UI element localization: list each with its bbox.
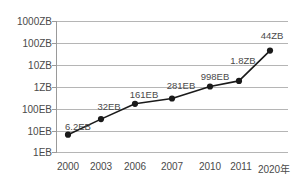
x-tick-label: 2020年 [258, 161, 290, 176]
data-point-label: 281EB [167, 80, 196, 91]
x-tick-label: 2000 [57, 161, 79, 172]
x-tick-label: 2007 [161, 161, 183, 172]
data-point-label: 44ZB [261, 30, 284, 41]
data-point-marker [132, 101, 138, 107]
data-point-marker [267, 48, 273, 54]
data-point-marker [207, 83, 213, 89]
x-tick-label: 2006 [124, 161, 146, 172]
data-point-label: 6.2EB [65, 121, 91, 132]
x-tick-label: 2010 [199, 161, 221, 172]
data-point-marker [98, 116, 104, 122]
line-chart: 1000ZB 100ZB 10ZB 1ZB 100EB 10EB 1EB 6.2… [0, 0, 301, 187]
data-point-marker [65, 132, 71, 138]
x-tick-label: 2003 [90, 161, 112, 172]
x-tick-label: 2011 [230, 161, 252, 172]
data-point-marker [169, 95, 175, 101]
data-point-label: 998EB [201, 71, 230, 82]
data-point-label: 161EB [130, 89, 159, 100]
data-point-label: 1.8ZB [230, 55, 255, 66]
data-point-marker [236, 78, 242, 84]
data-point-label: 32EB [97, 101, 120, 112]
